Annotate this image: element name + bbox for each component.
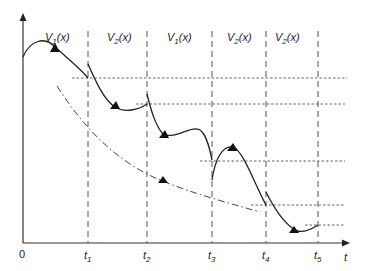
interval-labels: V1(x) V2(x) V1(x) V2(x) V2(x) <box>45 31 300 46</box>
direction-markers <box>50 43 299 233</box>
lyapunov-curve <box>23 41 318 232</box>
tick-label-t5: t5 <box>314 249 322 264</box>
y-axis-arrow-icon <box>20 13 27 21</box>
switching-lines <box>88 31 318 243</box>
x-axis-arrow-icon <box>342 240 350 247</box>
x-axis-label: t <box>344 251 348 263</box>
axes <box>20 13 351 247</box>
tick-label-t3: t3 <box>208 249 216 264</box>
tick-label-t4: t4 <box>262 249 270 264</box>
interval-label-4: V2(x) <box>227 31 252 46</box>
interval-label-2: V2(x) <box>107 31 132 46</box>
curve-segment-3 <box>147 94 212 160</box>
tick-label-t2: t2 <box>143 249 151 264</box>
curve-segment-5 <box>266 192 318 232</box>
curve-segment-2 <box>88 64 147 110</box>
curve-segment-4 <box>212 147 266 205</box>
origin-label: 0 <box>19 248 25 260</box>
switched-lyapunov-diagram: V1(x) V2(x) V1(x) V2(x) V2(x) 0 t1 t2 t3… <box>0 0 368 271</box>
interval-label-5: V2(x) <box>275 31 300 46</box>
interval-label-3: V1(x) <box>167 31 192 46</box>
tick-label-t1: t1 <box>84 249 92 264</box>
axis-labels: 0 t1 t2 t3 t4 t5 t <box>19 248 348 264</box>
interval-label-1: V1(x) <box>45 31 70 46</box>
